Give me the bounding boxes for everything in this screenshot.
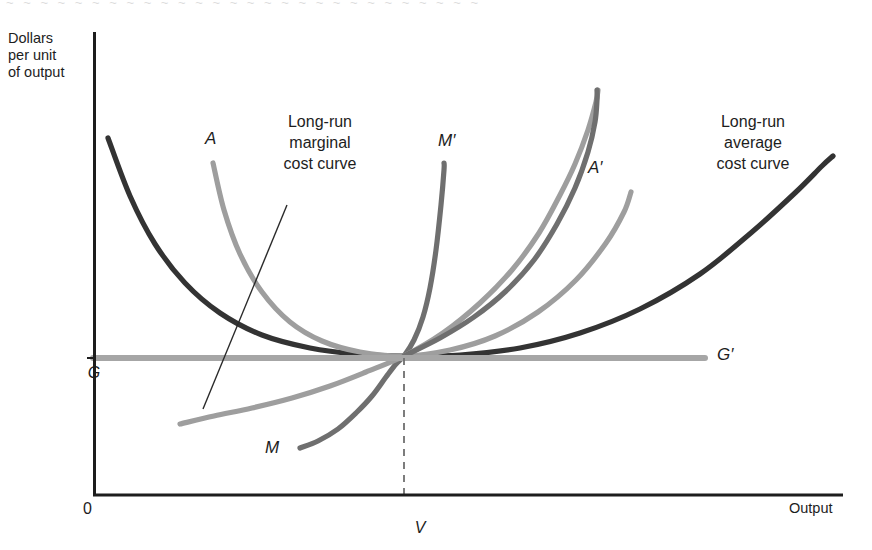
curve-label-a: A: [205, 129, 216, 149]
x-tick-label-V: V: [397, 500, 425, 550]
figure-canvas: ~ ~ ~ ~ ~ ~ ~ ~ ~ ~ ~ ~ ~ ~ ~ ~ ~ ~ ~ ~ …: [0, 0, 872, 550]
x-tick-label-V-text: V: [415, 519, 426, 536]
cost-curve-plot: [0, 0, 872, 550]
y-axis-title: Dollarsper unitof output: [8, 30, 64, 81]
y-tick-label-G-text: G: [88, 364, 100, 381]
origin-label: 0: [83, 500, 92, 519]
annotation-average-cost: Long-runaveragecost curve: [688, 112, 818, 174]
x-axis-title: Output: [789, 500, 833, 517]
curve-label-m-prime: M′: [438, 131, 455, 151]
curve-label-m: M: [265, 438, 279, 458]
curve-Mprime: [404, 90, 597, 356]
y-tick-label-G: G: [70, 345, 100, 402]
annotation-marginal-cost: Long-runmarginalcost curve: [255, 112, 385, 174]
curve-label-g-prime: G′: [717, 345, 733, 365]
curve-label-a-prime: A′: [588, 158, 603, 178]
curve-M: [300, 163, 444, 448]
